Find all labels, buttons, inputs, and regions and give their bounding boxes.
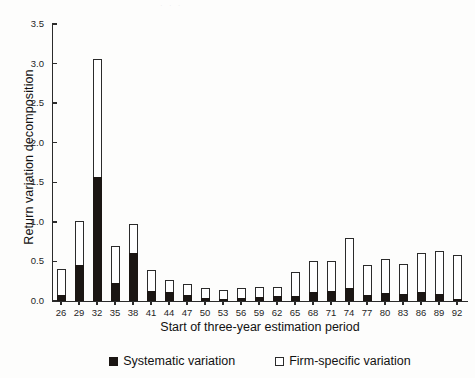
- stacked-bar: [201, 288, 210, 301]
- bar-segment-systematic: [237, 298, 246, 301]
- stacked-bar: [237, 288, 246, 301]
- bar-segment-systematic: [75, 265, 84, 301]
- scan-artifact-text: · · ·: [160, 1, 350, 11]
- bar-segment-systematic: [255, 297, 264, 301]
- stacked-bar: [453, 255, 462, 301]
- bar-segment-systematic: [219, 299, 228, 301]
- bar-segment-firm-specific: [453, 255, 462, 301]
- legend-item: Systematic variation: [109, 354, 235, 368]
- stacked-bar: [57, 269, 66, 301]
- bar-segment-systematic: [291, 296, 300, 301]
- stacked-bar: [183, 284, 192, 301]
- x-tick-mark: [294, 301, 295, 305]
- stacked-bar: [399, 264, 408, 301]
- x-tick-mark: [96, 301, 97, 305]
- x-tick-mark: [456, 301, 457, 305]
- x-tick-mark: [402, 301, 403, 305]
- stacked-bar: [435, 251, 444, 301]
- bar-segment-systematic: [345, 288, 354, 301]
- legend-label: Systematic variation: [123, 354, 235, 368]
- stacked-bar: [255, 287, 264, 301]
- x-tick-mark: [168, 301, 169, 305]
- x-tick-mark: [438, 301, 439, 305]
- stacked-bar: [129, 224, 138, 301]
- x-tick-mark: [204, 301, 205, 305]
- x-tick-mark: [258, 301, 259, 305]
- x-tick-mark: [132, 301, 133, 305]
- figure-container: · · · 0.00.51.01.52.02.53.03.5 262932353…: [0, 0, 475, 378]
- bar-segment-systematic: [93, 177, 102, 301]
- bar-segment-systematic: [111, 283, 120, 301]
- stacked-bar: [219, 290, 228, 301]
- x-tick-mark: [222, 301, 223, 305]
- bar-segment-systematic: [381, 293, 390, 301]
- bar-segment-systematic: [417, 292, 426, 301]
- stacked-bar: [381, 259, 390, 301]
- chart-legend: Systematic variationFirm-specific variat…: [52, 352, 468, 370]
- x-tick-mark: [420, 301, 421, 305]
- bar-segment-systematic: [453, 299, 462, 301]
- y-tick-label: 3.5: [4, 17, 44, 30]
- bar-segment-systematic: [309, 292, 318, 301]
- bar-segment-systematic: [363, 295, 372, 301]
- x-tick-mark: [366, 301, 367, 305]
- stacked-bar: [75, 221, 84, 301]
- legend-label: Firm-specific variation: [289, 354, 411, 368]
- stacked-bar: [345, 238, 354, 301]
- x-tick-mark: [186, 301, 187, 305]
- bar-segment-systematic: [327, 291, 336, 301]
- x-tick-mark: [384, 301, 385, 305]
- hollow-square-icon: [275, 357, 284, 366]
- bar-segment-systematic: [147, 291, 156, 301]
- x-tick-mark: [240, 301, 241, 305]
- bar-segment-systematic: [399, 294, 408, 301]
- x-tick-mark: [150, 301, 151, 305]
- stacked-bar: [165, 280, 174, 301]
- x-tick-mark: [330, 301, 331, 305]
- x-tick-mark: [276, 301, 277, 305]
- stacked-bar: [111, 246, 120, 301]
- legend-item: Firm-specific variation: [275, 354, 411, 368]
- plot-area: [52, 24, 466, 301]
- stacked-bar: [363, 265, 372, 301]
- y-axis-title: Return variation decomposition: [22, 32, 36, 282]
- stacked-bar: [273, 287, 282, 301]
- bar-segment-systematic: [273, 296, 282, 301]
- x-tick-mark: [60, 301, 61, 305]
- filled-square-icon: [109, 357, 118, 366]
- x-tick-mark: [348, 301, 349, 305]
- x-axis-title: Start of three-year estimation period: [52, 320, 468, 334]
- stacked-bar: [327, 261, 336, 301]
- stacked-bar: [417, 253, 426, 301]
- stacked-bar: [93, 59, 102, 301]
- x-tick-mark: [312, 301, 313, 305]
- x-tick-mark: [114, 301, 115, 305]
- y-tick-label: 0.0: [4, 294, 44, 307]
- bar-segment-systematic: [129, 253, 138, 301]
- bar-segment-systematic: [57, 295, 66, 301]
- stacked-bar: [291, 272, 300, 301]
- bar-segment-systematic: [435, 294, 444, 301]
- bar-segment-systematic: [201, 298, 210, 301]
- bar-segment-systematic: [183, 295, 192, 301]
- stacked-bar: [147, 270, 156, 301]
- stacked-bar: [309, 261, 318, 301]
- x-tick-label: 92: [443, 307, 471, 318]
- x-tick-mark: [78, 301, 79, 305]
- bar-segment-systematic: [165, 292, 174, 301]
